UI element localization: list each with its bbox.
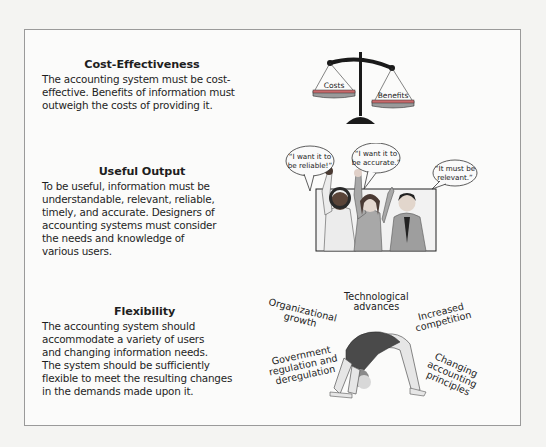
section-title: Flexibility [42, 305, 247, 318]
svg-text:be accurate.”: be accurate.” [352, 158, 401, 167]
svg-text:“It must be: “It must be [435, 164, 476, 173]
section-flexibility: Flexibility The accounting system should… [42, 305, 247, 399]
section-cost-effectiveness: Cost-Effectiveness The accounting system… [42, 58, 242, 112]
section-body: To be useful, information must be unders… [42, 180, 242, 259]
balance-scale-illustration: Costs Benefits [312, 48, 432, 130]
svg-text:Costs: Costs [324, 81, 345, 90]
users-illustration: “I want it to be reliable!” “I want it t… [270, 143, 490, 261]
svg-text:“I want it to: “I want it to [355, 149, 397, 158]
label-technological-advances: Technological advances [344, 292, 409, 312]
section-title: Useful Output [42, 165, 242, 178]
balance-scale-icon: Costs Benefits [312, 48, 432, 130]
section-body: The accounting system should accommodate… [42, 320, 247, 399]
svg-text:Benefits: Benefits [378, 91, 409, 100]
svg-text:be reliable!”: be reliable!” [288, 161, 333, 170]
section-useful-output: Useful Output To be useful, information … [42, 165, 242, 259]
svg-text:relevant.”: relevant.” [437, 173, 473, 182]
svg-text:“I want it to: “I want it to [289, 152, 331, 161]
section-body: The accounting system must be cost- effe… [42, 73, 242, 112]
users-icon: “I want it to be reliable!” “I want it t… [270, 143, 490, 261]
section-title: Cost-Effectiveness [42, 58, 242, 71]
